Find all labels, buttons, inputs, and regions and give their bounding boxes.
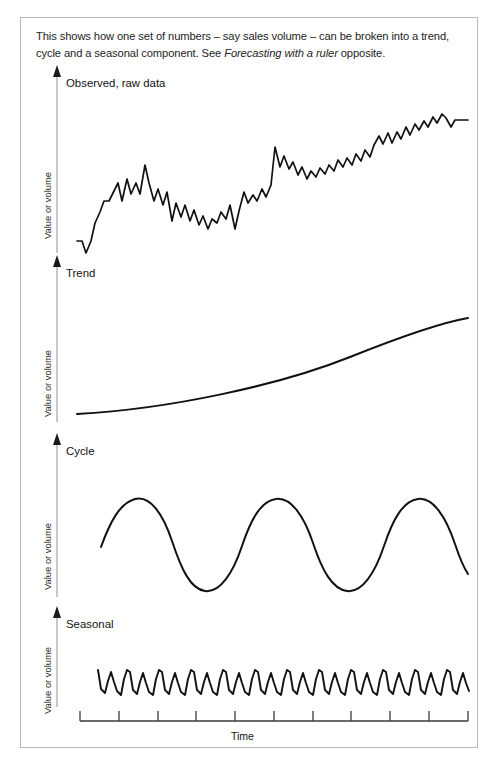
y-axis-arrow-observed: [53, 65, 61, 77]
series-trend: [77, 318, 468, 414]
series-seasonal: [98, 670, 469, 695]
y-axis-arrow-cycle: [53, 433, 61, 445]
x-axis-time: [80, 711, 468, 721]
panel-seasonal: [53, 606, 469, 707]
panel-cycle: [53, 433, 468, 597]
y-axis-arrow-trend: [53, 255, 61, 267]
panel-trend: [53, 255, 468, 422]
panel-observed: [53, 65, 468, 253]
y-axis-arrow-seasonal: [53, 606, 61, 618]
decomposition-chart-svg: [20, 17, 478, 748]
chart-panels: Observed, raw data Trend Cycle Seasonal …: [20, 17, 478, 748]
series-observed: [77, 114, 468, 253]
series-cycle: [101, 498, 468, 591]
